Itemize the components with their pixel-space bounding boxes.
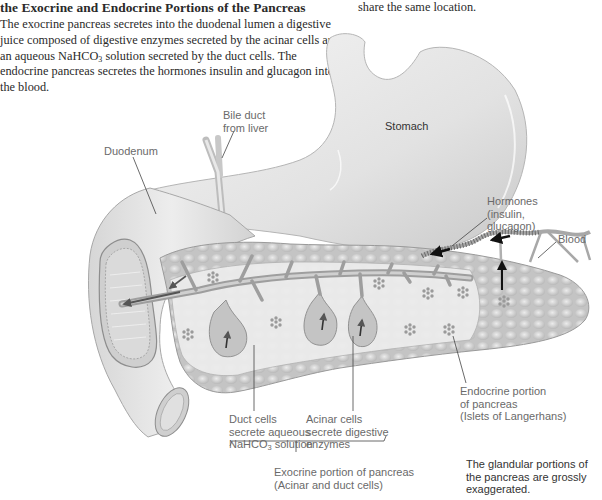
label-line: Endocrine portion — [460, 385, 566, 398]
label-line: of pancreas — [460, 398, 566, 411]
label-stomach: Stomach — [385, 120, 428, 133]
label-hormones: Hormones (insulin, glucagon) — [487, 195, 538, 233]
label-exocrine-portion: Exocrine portion of pancreas (Acinar and… — [274, 466, 414, 491]
label-line: (Islets of Langerhans) — [460, 410, 566, 423]
label-line: (insulin, — [487, 208, 538, 221]
label-line: NaHCO3 solution — [229, 438, 313, 451]
label-line: Duct cells — [229, 413, 313, 426]
note-line: The glandular portions of — [466, 458, 588, 471]
label-text: NaHCO — [229, 438, 268, 450]
note-line: exaggerated. — [466, 483, 588, 496]
label-line: enzymes — [306, 438, 389, 451]
note-line: the pancreas are grossly — [466, 471, 588, 484]
label-line: Hormones — [487, 195, 538, 208]
label-line: secrete aqueous — [229, 426, 313, 439]
label-line: secrete digestive — [306, 426, 389, 439]
label-line: Acinar cells — [306, 413, 389, 426]
pancreas — [122, 242, 589, 393]
label-blood: Blood — [558, 233, 586, 246]
label-duodenum: Duodenum — [104, 145, 158, 158]
label-line: (Acinar and duct cells) — [274, 479, 414, 492]
label-line: glucagon) — [487, 220, 538, 233]
label-line: from liver — [223, 122, 268, 135]
label-bile-duct: Bile duct from liver — [223, 109, 268, 134]
label-duct-cells: Duct cells secrete aqueous NaHCO3 soluti… — [229, 413, 313, 451]
note-exaggerated: The glandular portions of the pancreas a… — [466, 458, 588, 496]
label-endocrine-portion: Endocrine portion of pancreas (Islets of… — [460, 385, 566, 423]
label-line: Bile duct — [223, 109, 268, 122]
label-acinar-cells: Acinar cells secrete digestive enzymes — [306, 413, 389, 451]
label-line: Exocrine portion of pancreas — [274, 466, 414, 479]
